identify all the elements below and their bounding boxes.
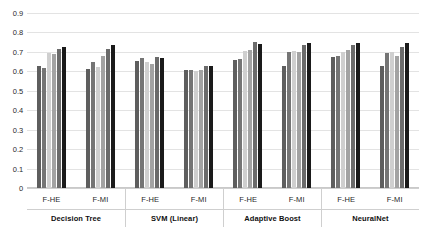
classifier-label-cell: F-HEF-MIAdaptive Boost — [223, 189, 321, 227]
y-axis-tick-label: 0.5 — [13, 86, 23, 95]
bar — [405, 43, 409, 188]
bar — [189, 70, 193, 188]
classifier-label: Decision Tree — [27, 209, 125, 227]
y-axis-tick-label: 0 — [19, 184, 23, 193]
bar — [145, 62, 149, 188]
bar — [86, 69, 90, 188]
bar — [292, 51, 296, 188]
y-axis-tick-label: 0.9 — [13, 9, 23, 18]
y-axis-tick-label: 0.8 — [13, 28, 23, 37]
feature-set-label: F-HE — [126, 189, 175, 209]
bar — [356, 43, 360, 188]
feature-set-group — [76, 13, 125, 188]
classifier-label: SVM (Linear) — [126, 209, 223, 227]
classifier-label-cell: F-HEF-MINeuralNet — [321, 189, 419, 227]
feature-set-group — [27, 13, 76, 188]
plot-area — [27, 13, 419, 188]
bar — [140, 58, 144, 188]
bar — [101, 56, 105, 188]
y-axis-tick-label: 0.6 — [13, 67, 23, 76]
feature-set-group — [321, 13, 370, 188]
classifier-group — [27, 13, 125, 188]
bar — [150, 64, 154, 188]
bar — [380, 66, 384, 188]
classifier-label-cell: F-HEF-MISVM (Linear) — [125, 189, 223, 227]
y-axis-tick-label: 0.2 — [13, 145, 23, 154]
bar — [282, 66, 286, 189]
feature-set-label: F-HE — [224, 189, 273, 209]
bar — [253, 42, 257, 188]
feature-set-label-row: F-HEF-MI — [224, 189, 321, 210]
bar — [199, 70, 203, 188]
bars-layer — [27, 13, 419, 188]
bar — [385, 53, 389, 188]
feature-set-label-row: F-HEF-MI — [322, 189, 419, 210]
bar — [331, 57, 335, 188]
bar — [297, 52, 301, 188]
bar — [57, 49, 61, 188]
feature-set-group — [223, 13, 272, 188]
classifier-group — [223, 13, 321, 188]
bar — [160, 58, 164, 188]
bar — [302, 45, 306, 188]
bar — [62, 47, 66, 188]
bar — [106, 49, 110, 188]
feature-set-label-row: F-HEF-MI — [27, 189, 125, 210]
bar — [91, 62, 95, 188]
category-axis-labels: F-HEF-MIDecision TreeF-HEF-MISVM (Linear… — [27, 188, 419, 227]
bar — [42, 68, 46, 188]
bar — [184, 70, 188, 188]
bar — [52, 54, 56, 188]
bar — [287, 52, 291, 188]
classifier-label: Adaptive Boost — [224, 209, 321, 227]
bar — [47, 53, 51, 188]
feature-set-group — [174, 13, 223, 188]
bar — [233, 60, 237, 188]
bar — [204, 66, 208, 188]
bar — [351, 45, 355, 188]
bar — [209, 66, 213, 188]
bar — [395, 56, 399, 188]
bar — [111, 45, 115, 188]
feature-set-label: F-MI — [273, 189, 322, 209]
bar — [346, 50, 350, 188]
bar-chart: 0.90.80.70.60.50.40.30.20.10 F-HEF-MIDec… — [0, 0, 424, 227]
feature-set-group — [272, 13, 321, 188]
y-axis-tick-label: 0.7 — [13, 47, 23, 56]
bar — [336, 56, 340, 188]
bar — [155, 57, 159, 188]
classifier-group — [125, 13, 223, 188]
classifier-group — [321, 13, 419, 188]
bar — [248, 50, 252, 188]
feature-set-label: F-HE — [27, 189, 76, 209]
classifier-label-cell: F-HEF-MIDecision Tree — [27, 189, 125, 227]
y-axis-tick-label: 0.1 — [13, 164, 23, 173]
classifier-label: NeuralNet — [322, 209, 419, 227]
feature-set-label-row: F-HEF-MI — [126, 189, 223, 210]
bar — [243, 51, 247, 188]
feature-set-label: F-MI — [175, 189, 224, 209]
bar — [238, 59, 242, 188]
y-axis: 0.90.80.70.60.50.40.30.20.10 — [0, 0, 26, 227]
bar — [307, 43, 311, 188]
bar — [194, 71, 198, 188]
feature-set-group — [370, 13, 419, 188]
bar — [258, 44, 262, 188]
bar — [341, 52, 345, 188]
bar — [400, 47, 404, 188]
feature-set-label: F-HE — [322, 189, 371, 209]
bar — [37, 66, 41, 188]
feature-set-label: F-MI — [371, 189, 420, 209]
bar — [96, 67, 100, 188]
bar — [135, 61, 139, 188]
y-axis-tick-label: 0.3 — [13, 125, 23, 134]
bar — [390, 52, 394, 188]
feature-set-group — [125, 13, 174, 188]
y-axis-tick-label: 0.4 — [13, 106, 23, 115]
feature-set-label: F-MI — [76, 189, 125, 209]
